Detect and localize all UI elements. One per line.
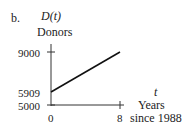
series-line-D [51,52,120,92]
plot-area [0,0,184,131]
